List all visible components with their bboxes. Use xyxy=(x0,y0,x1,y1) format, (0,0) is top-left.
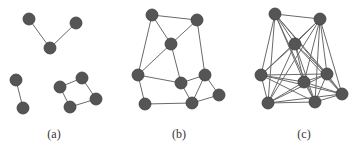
graph-edge xyxy=(268,94,342,103)
graph-edge xyxy=(145,103,192,104)
graph-edge xyxy=(138,15,152,75)
graph-node xyxy=(262,97,274,109)
panel-c-label: (c) xyxy=(297,127,310,142)
graph-edge xyxy=(275,14,315,102)
graph-node xyxy=(165,38,177,50)
graph-node xyxy=(186,97,198,109)
graph-node xyxy=(298,76,310,88)
graph-node xyxy=(289,38,301,50)
panel-c-graph xyxy=(255,8,348,109)
graph-node xyxy=(23,13,35,25)
graph-edge xyxy=(320,19,327,74)
graph-node xyxy=(90,93,102,105)
graph-node xyxy=(213,89,225,101)
graph-node xyxy=(146,9,158,21)
graph-node xyxy=(64,101,76,113)
graph-edge xyxy=(261,44,295,75)
graph-edge xyxy=(138,75,181,83)
graph-node xyxy=(139,98,151,110)
panel-b-graph xyxy=(132,9,225,110)
graph-node xyxy=(309,96,321,108)
panel-a-label: (a) xyxy=(47,127,60,142)
graph-edge xyxy=(152,15,197,20)
graph-edge xyxy=(197,20,205,75)
graph-node xyxy=(255,69,267,81)
graph-node xyxy=(10,74,22,86)
graph-edge xyxy=(138,44,171,75)
graph-node xyxy=(269,8,281,20)
graph-node xyxy=(321,68,333,80)
graph-node xyxy=(314,13,326,25)
graph-node xyxy=(17,102,29,114)
graph-node xyxy=(336,88,348,100)
graph-node xyxy=(175,77,187,89)
graph-node xyxy=(76,72,88,84)
graph-node xyxy=(54,81,66,93)
panel-a-graph xyxy=(10,13,102,114)
graph-node xyxy=(199,69,211,81)
graph-node xyxy=(44,42,56,54)
graph-node xyxy=(191,14,203,26)
graph-node xyxy=(132,69,144,81)
graph-node xyxy=(70,17,82,29)
panel-b-label: (b) xyxy=(172,127,186,142)
graph-edge xyxy=(275,14,320,19)
